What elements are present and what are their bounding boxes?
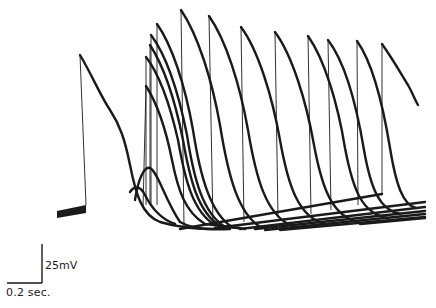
time-scale-label: 0.2 sec. bbox=[6, 286, 51, 299]
voltage-scale-label: 25mV bbox=[45, 259, 77, 272]
resting-baseline bbox=[57, 205, 86, 218]
conditioning-action-potential bbox=[80, 55, 230, 229]
test-action-potentials bbox=[143, 10, 418, 229]
scale-bars bbox=[7, 244, 42, 283]
